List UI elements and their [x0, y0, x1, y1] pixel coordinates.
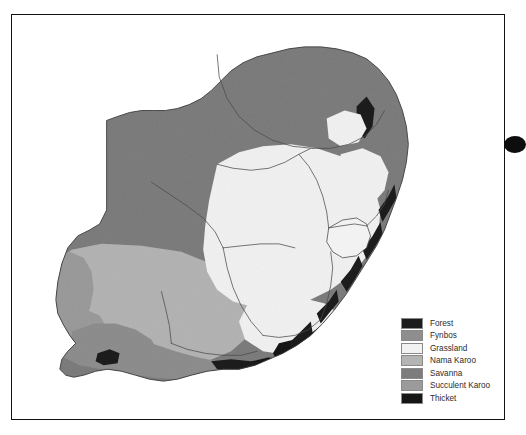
legend-swatch-fynbos [401, 330, 423, 341]
legend-swatch-forest [401, 318, 423, 329]
edge-marker[interactable] [504, 136, 526, 153]
legend-item-fynbos[interactable]: Fynbos [401, 330, 505, 342]
legend-swatch-nama-karoo [401, 355, 423, 366]
legend-swatch-savanna [401, 368, 423, 379]
legend-item-thicket[interactable]: Thicket [401, 392, 505, 404]
legend-item-succulent-karoo[interactable]: Succulent Karoo [401, 380, 505, 392]
map-frame: Forest Fynbos Grassland Nama Karoo Savan… [11, 14, 505, 420]
biome-legend: Forest Fynbos Grassland Nama Karoo Savan… [401, 317, 505, 405]
legend-swatch-grassland [401, 343, 423, 354]
legend-label-thicket: Thicket [430, 393, 456, 404]
legend-item-nama-karoo[interactable]: Nama Karoo [401, 355, 505, 367]
legend-item-forest[interactable]: Forest [401, 317, 505, 329]
legend-label-forest: Forest [430, 318, 453, 329]
legend-label-nama-karoo: Nama Karoo [430, 355, 476, 366]
legend-label-fynbos: Fynbos [430, 330, 457, 341]
legend-label-grassland: Grassland [430, 343, 467, 354]
legend-label-succulent-karoo: Succulent Karoo [430, 380, 490, 391]
legend-swatch-thicket [401, 393, 423, 404]
legend-label-savanna: Savanna [430, 368, 462, 379]
legend-swatch-succulent-karoo [401, 380, 423, 391]
legend-item-savanna[interactable]: Savanna [401, 367, 505, 379]
legend-item-grassland[interactable]: Grassland [401, 342, 505, 354]
